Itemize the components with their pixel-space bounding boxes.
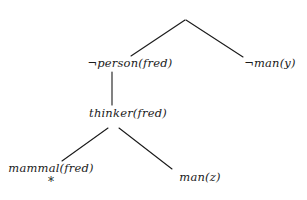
negation-icon: ¬	[244, 56, 254, 70]
tree-node-root	[184, 18, 186, 20]
tree-node-label: mammal(fred)	[8, 161, 93, 175]
tree-edge-thinker-to-mammal	[62, 128, 108, 161]
negation-icon: ¬	[88, 56, 98, 70]
tree-node-label: thinker(fred)	[89, 106, 167, 120]
tree-node-label: person(fred)	[97, 56, 172, 70]
proof-tree-diagram: ¬person(fred)¬man(y)thinker(fred)mammal(…	[0, 0, 307, 200]
tree-edge-root-to-many	[186, 20, 243, 57]
closed-branch-marker: *	[48, 176, 54, 188]
tree-edge-thinker-to-manz	[119, 128, 172, 169]
tree-node-mammal: mammal(fred)	[8, 163, 93, 175]
tree-node-person: ¬person(fred)	[88, 58, 173, 70]
tree-node-thinker: thinker(fred)	[89, 108, 167, 120]
tree-node-label: man(z)	[179, 170, 220, 184]
tree-node-manz: man(z)	[179, 172, 220, 184]
tree-node-label: man(y)	[254, 56, 296, 70]
tree-edge-root-to-person	[131, 20, 185, 56]
tree-node-many: ¬man(y)	[244, 58, 295, 70]
